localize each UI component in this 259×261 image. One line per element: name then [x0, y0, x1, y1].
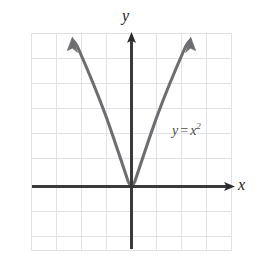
equation-label: y=x2	[172, 124, 201, 138]
equation-rhs-exponent: 2	[196, 121, 201, 131]
x-axis-label: x	[238, 177, 245, 193]
parabola-figure: y x y=x2	[0, 0, 259, 261]
equation-lhs: y	[172, 123, 178, 138]
graph-canvas	[0, 0, 259, 261]
equation-operator: =	[180, 123, 188, 138]
y-axis-label: y	[122, 8, 129, 24]
